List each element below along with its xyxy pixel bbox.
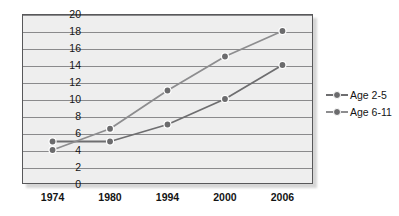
legend-dot — [333, 91, 341, 99]
legend-item[interactable]: Age 6-11 — [326, 103, 399, 120]
line-chart: 02468101214161820 19741980199420002006 A… — [0, 0, 399, 216]
x-axis-tick-label: 1980 — [80, 192, 140, 203]
data-point-marker — [165, 122, 171, 128]
legend-item[interactable]: Age 2-5 — [326, 86, 399, 103]
series-layer — [22, 14, 313, 184]
x-axis-tick-label: 2000 — [195, 192, 255, 203]
data-point-marker — [107, 139, 113, 145]
data-point-marker — [222, 96, 228, 102]
data-point-marker — [280, 62, 286, 68]
legend: Age 2-5Age 6-11 — [326, 86, 399, 120]
x-axis-tick-label: 2006 — [252, 192, 312, 203]
x-axis-tick-label: 1994 — [138, 192, 198, 203]
legend-label: Age 6-11 — [348, 106, 392, 118]
data-point-marker — [107, 126, 113, 132]
legend-dot — [333, 108, 341, 116]
data-point-marker — [165, 88, 171, 94]
data-point-marker — [280, 28, 286, 34]
data-point-marker — [222, 54, 228, 60]
legend-label: Age 2-5 — [348, 89, 387, 101]
series-line — [53, 65, 283, 142]
x-axis-tick-label: 1974 — [23, 192, 83, 203]
legend-marker-icon — [326, 89, 348, 101]
data-point-marker — [50, 147, 56, 153]
legend-marker-icon — [326, 106, 348, 118]
data-point-marker — [50, 139, 56, 145]
